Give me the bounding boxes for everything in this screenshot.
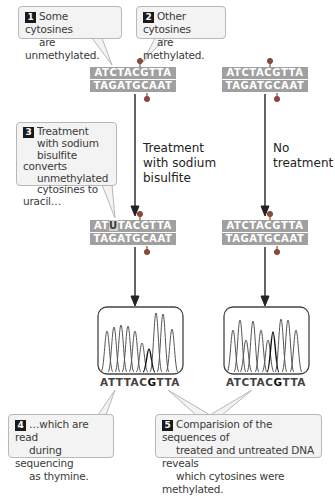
- callout-text: bisulfite converts: [23, 149, 77, 173]
- sequence-part: AT: [94, 220, 109, 231]
- dna-top-strand: ATCTACGTTA: [222, 67, 308, 79]
- callout-text: Comparision of the sequences of: [162, 418, 272, 443]
- no-treatment-label: No treatment: [273, 141, 333, 171]
- callout-4-pointer: [98, 390, 115, 415]
- sequence-part: TACGTTA: [118, 220, 172, 231]
- arrow-to-sequencing-treated: [131, 247, 139, 306]
- callout-text: which cytosines were methylated.: [162, 470, 284, 495]
- dna-bottom-strand: TAGATGCAAT: [90, 233, 176, 245]
- step-number-badge: 1: [25, 12, 36, 23]
- arrow-untreated: [261, 94, 269, 216]
- callout-5: 5Comparision of the sequences of treated…: [155, 414, 322, 458]
- dna-treated: ATUTACGTTA TAGATGCAAT: [90, 220, 176, 245]
- methylated-base: G: [273, 376, 282, 388]
- label-line: bisulfite: [143, 171, 216, 186]
- callout-text: Treatment: [37, 125, 89, 137]
- dna-bottom-strand: TAGATGCAAT: [90, 80, 176, 92]
- dna-bottom-strand: TAGATGCAAT: [222, 80, 308, 92]
- dna-top-strand: ATCTACGTTA: [90, 67, 176, 79]
- dna-original-right: ATCTACGTTA TAGATGCAAT: [222, 67, 308, 92]
- arrow-treated: [131, 94, 139, 216]
- step-number-badge: 2: [143, 12, 154, 23]
- dna-top-strand: ATUTACGTTA: [90, 220, 176, 232]
- uracil-highlight: U: [109, 220, 118, 231]
- callout-text: treated and untreated DNA reveals: [162, 444, 314, 469]
- step-number-badge: 4: [15, 420, 26, 431]
- dna-top-strand: ATCTACGTTA: [222, 220, 308, 232]
- label-line: No: [273, 141, 333, 156]
- label-line: Treatment: [143, 141, 216, 156]
- sequence-part: ATCTAC: [226, 376, 273, 388]
- callout-3-pointer: [102, 185, 115, 218]
- label-line: with sodium: [143, 156, 216, 171]
- sequence-part: TTA: [283, 376, 306, 388]
- callout-text: unmethylated: [23, 172, 108, 184]
- callout-text: …which are read: [15, 418, 88, 443]
- dna-original-left: ATCTACGTTA TAGATGCAAT: [90, 67, 176, 92]
- callout-3: 3Treatment with sodium bisulfite convert…: [16, 122, 117, 186]
- sequence-part: ATTTAC: [100, 376, 147, 388]
- sequence-read-treated: ATTTACGTTA: [95, 376, 185, 388]
- callout-text: as thymine.: [15, 470, 89, 482]
- sequence-part: TTA: [157, 376, 180, 388]
- callout-text: with sodium: [23, 137, 99, 149]
- callout-4: 4…which are read during sequencing as th…: [8, 414, 114, 458]
- sequence-read-untreated: ATCTACGTTA: [221, 376, 311, 388]
- label-line: treatment: [273, 156, 333, 171]
- callout-1: 1Some cytosines are unmethylated.: [18, 6, 122, 39]
- step-number-badge: 5: [162, 420, 173, 431]
- dna-untreated: ATCTACGTTA TAGATGCAAT: [222, 220, 308, 245]
- treatment-label: Treatment with sodium bisulfite: [143, 141, 216, 186]
- arrow-to-sequencing-untreated: [261, 247, 269, 306]
- callout-text: during sequencing: [15, 444, 73, 469]
- callout-2: 2Other cytosines are methylated.: [136, 6, 226, 39]
- dna-bottom-strand: TAGATGCAAT: [222, 233, 308, 245]
- methylated-base: G: [147, 376, 156, 388]
- callout-5-pointer: [168, 390, 252, 415]
